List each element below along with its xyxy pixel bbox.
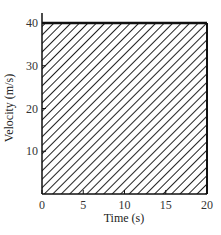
x-tick-label: 15 [160,198,172,212]
y-axis-label: Velocity (m/s) [2,74,16,142]
x-tick-label: 5 [80,198,86,212]
x-tick-label: 20 [201,198,213,212]
y-tick-label: 10 [26,144,38,158]
y-tick-label: 30 [26,59,38,73]
x-tick-label: 10 [119,198,131,212]
y-tick-label: 40 [26,16,38,30]
y-tick-label: 20 [26,102,38,116]
hatched-area [42,23,207,194]
velocity-time-chart: 10203040 05101520 Time (s) Velocity (m/s… [0,0,221,235]
x-axis-label: Time (s) [104,211,145,225]
x-tick-label: 0 [39,198,45,212]
